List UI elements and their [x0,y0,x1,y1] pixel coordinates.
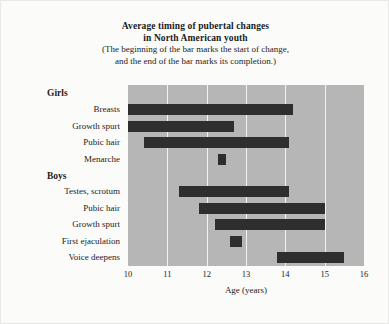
bar-girls-menarche [218,154,226,165]
bar-boys-voice-deepens [277,252,344,263]
row-label-girls-breasts: Breasts [94,104,121,115]
bar-boys-pubic-hair [199,203,325,214]
row-label-boys-pubic-hair: Pubic hair [83,203,120,214]
x-tick-label-15: 15 [320,269,329,279]
bar-girls-breasts [128,104,293,115]
x-axis-title: Age (years) [128,285,364,295]
row-label-boys-growth-spurt: Growth spurt [72,219,120,230]
row-label-girls-pubic-hair: Pubic hair [83,137,120,148]
chart-title-line-2: in North American youth [1,33,389,45]
chart-subtitle-line-2: and the end of the bar marks its complet… [1,56,389,68]
gridline-15 [325,85,326,266]
x-axis: 10111213141516 [128,266,364,282]
row-label-boys-voice-deepens: Voice deepens [68,252,120,263]
group-label-girls: Girls [47,88,68,99]
bar-girls-growth-spurt [128,121,234,132]
x-tick-label-11: 11 [163,269,171,279]
chart-title-line-1: Average timing of pubertal changes [1,21,389,33]
row-label-girls-growth-spurt: Growth spurt [72,121,120,132]
row-label-boys-first-ejaculation: First ejaculation [62,236,120,247]
chart-subtitle-line-1: (The beginning of the bar marks the star… [1,44,389,56]
x-tick-label-16: 16 [360,269,369,279]
chart-figure: Average timing of pubertal changes in No… [0,0,389,324]
row-label-boys-testes-scrotum: Testes, scrotum [64,186,120,197]
group-label-boys: Boys [47,171,67,182]
row-label-girls-menarche: Menarche [84,154,120,165]
bar-boys-testes-scrotum [179,186,289,197]
category-axis-labels: GirlsBreastsGrowth spurtPubic hairMenarc… [1,85,124,266]
bar-boys-first-ejaculation [230,236,242,247]
x-tick-label-10: 10 [124,269,133,279]
x-tick-label-12: 12 [202,269,211,279]
x-tick-label-14: 14 [281,269,290,279]
bar-boys-growth-spurt [215,219,325,230]
x-tick-label-13: 13 [242,269,251,279]
plot-area [128,85,364,266]
bar-girls-pubic-hair [144,137,290,148]
chart-title-block: Average timing of pubertal changes in No… [1,21,389,67]
